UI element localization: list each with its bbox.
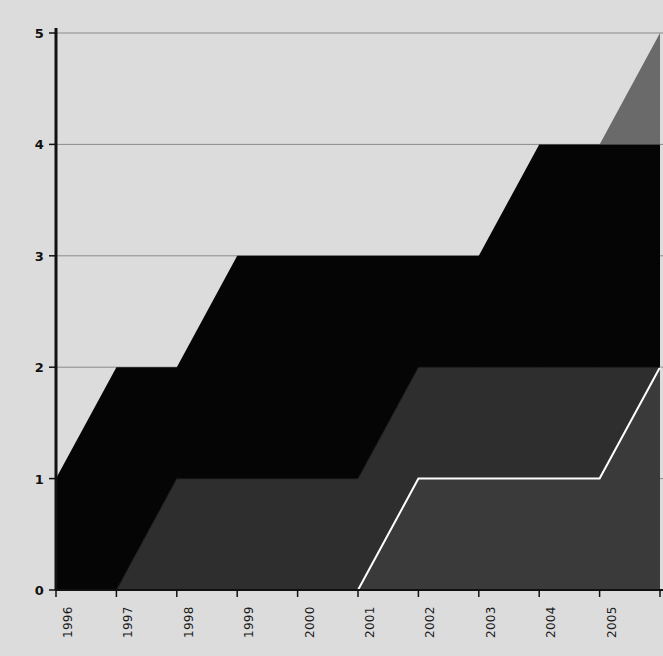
x-tick-label-2005: 2005: [605, 606, 619, 638]
x-tick-label-2002: 2002: [423, 606, 437, 638]
y-tick-label-4: 4: [14, 137, 44, 152]
y-tick-label-3: 3: [14, 248, 44, 263]
x-tick-label-2003: 2003: [484, 606, 498, 638]
y-tick-label-1: 1: [14, 471, 44, 486]
x-tick-label-1999: 1999: [242, 606, 256, 638]
x-tick-label-1997: 1997: [121, 606, 135, 638]
x-tick-label-2000: 2000: [303, 606, 317, 638]
chart-container: 543210 199619971998199920002001200220032…: [0, 0, 663, 656]
x-tick-label-1996: 1996: [61, 606, 75, 638]
x-tick-label-2001: 2001: [363, 606, 377, 638]
y-tick-label-2: 2: [14, 360, 44, 375]
chart-plot-svg: [0, 0, 663, 656]
x-tick-label-1998: 1998: [182, 606, 196, 638]
x-tick-label-2004: 2004: [544, 606, 558, 638]
y-tick-label-5: 5: [14, 26, 44, 41]
y-tick-label-0: 0: [14, 583, 44, 598]
